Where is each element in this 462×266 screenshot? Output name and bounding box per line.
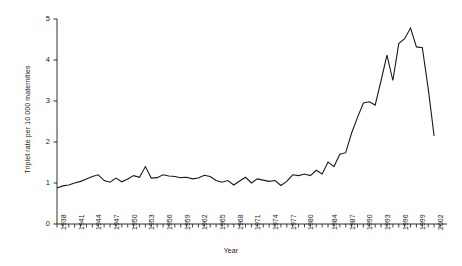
- x-tick-label: 1968: [237, 214, 244, 230]
- x-tick-label: 1980: [307, 214, 314, 230]
- data-series-line: [57, 28, 434, 188]
- plot-area: [0, 0, 462, 266]
- x-tick-label: 1962: [201, 214, 208, 230]
- x-axis-title: Year: [0, 247, 462, 254]
- x-tick-label: 1999: [419, 214, 426, 230]
- axis-lines: [57, 19, 447, 224]
- x-tick-label: 1987: [349, 214, 356, 230]
- x-tick-label: 1938: [60, 214, 67, 230]
- y-tick-label: 5: [36, 14, 50, 23]
- y-tick-label: 0: [36, 219, 50, 228]
- x-tick-label: 1944: [95, 214, 102, 230]
- x-tick-label: 1959: [184, 214, 191, 230]
- x-tick-label: 1947: [113, 214, 120, 230]
- x-tick-label: 1984: [331, 214, 338, 230]
- y-tick-label: 1: [36, 178, 50, 187]
- triplet-rate-line-chart: Triplet rate per 10 000 maternities Year…: [0, 0, 462, 266]
- x-tick-label: 2002: [437, 214, 444, 230]
- y-axis-title: Triplet rate per 10 000 maternities: [24, 40, 31, 200]
- x-tick-label: 1974: [272, 214, 279, 230]
- x-tick-label: 1950: [131, 214, 138, 230]
- x-tick-label: 1993: [384, 214, 391, 230]
- y-tick-label: 4: [36, 55, 50, 64]
- x-tick-label: 1996: [402, 214, 409, 230]
- x-tick-label: 1990: [366, 214, 373, 230]
- x-tick-label: 1965: [219, 214, 226, 230]
- y-tick-label: 3: [36, 96, 50, 105]
- y-axis-ticks: [54, 19, 58, 224]
- x-tick-label: 1956: [166, 214, 173, 230]
- x-tick-label: 1941: [78, 214, 85, 230]
- x-tick-label: 1977: [290, 214, 297, 230]
- x-tick-label: 1971: [254, 214, 261, 230]
- y-tick-label: 2: [36, 137, 50, 146]
- x-tick-label: 1953: [148, 214, 155, 230]
